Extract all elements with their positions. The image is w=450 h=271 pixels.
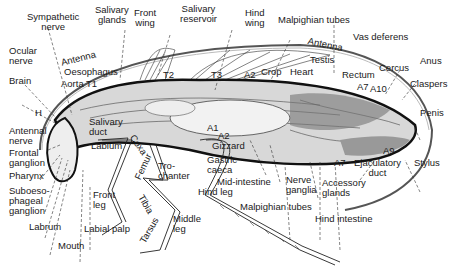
label-heart: Heart [290,67,313,77]
label-hind-intestine: Hind intestine [315,214,373,224]
label-a2-top: A2 [244,70,256,80]
label-claspers: Claspers [410,79,448,89]
anatomy-diagram: Sympathetic nerve Salivary glands Front … [0,0,450,271]
label-middle-leg: Middle leg [173,214,201,234]
label-testis: Testis [310,55,334,65]
label-gastric-caeca: Gastric caeca [207,155,237,175]
label-trochanter: Tro- chanter [158,161,190,181]
label-frontal-ganglion: Frontal ganglion [9,148,45,168]
label-oesophagus: Oesophagus [64,67,118,77]
label-penis: Penis [420,108,444,118]
label-salivary-reservoir: Salivary reservoir [180,4,217,24]
label-nerve-ganglia: Nerve ganglia [286,175,317,195]
label-a7-top: A7 [357,82,369,92]
label-front-wing: Front wing [134,8,156,28]
label-t1: T1 [86,79,97,89]
label-h: H [35,108,42,118]
label-aorta: Aorta [61,79,84,89]
label-rectum: Rectum [342,70,375,80]
label-t3: T3 [211,70,222,80]
label-a9: A9 [383,146,395,156]
label-a10: A10 [370,84,387,94]
label-labial-palp: Labial palp [84,224,130,234]
label-ejaculatory-duct: Ejaculatory duct [354,158,401,178]
label-labium: Labium [91,141,122,151]
label-gizzard: Gizzard [212,141,245,151]
label-suboesophageal-ganglion: Suboeso- phageal ganglion [9,186,50,216]
label-labrum: Labrum [29,222,61,232]
label-a1: A1 [207,123,219,133]
label-mouth: Mouth [58,241,84,251]
label-antennal-nerve: Antennal nerve [9,126,47,146]
label-a7-bottom: A7 [334,158,346,168]
label-vas-deferens: Vas deferens [353,32,408,42]
label-pharynx: Pharynx [9,171,44,181]
label-ocular-nerve: Ocular nerve [9,46,37,66]
label-salivary-glands: Salivary glands [95,5,129,25]
label-malpighian-tubes-bottom: Malpighian tubes [240,202,312,212]
label-stylus: Stylus [414,158,440,168]
label-cercus: Cercus [379,63,409,73]
label-accessory-glands: Accessory glands [322,178,366,198]
label-anus: Anus [420,56,442,66]
label-t2: T2 [163,70,174,80]
label-hind-wing: Hind wing [245,8,265,28]
label-malpighian-tubes-top: Malpighian tubes [278,15,350,25]
label-hind-leg: Hind leg [198,187,233,197]
label-crop: Crop [261,67,282,77]
label-sympathetic-nerve: Sympathetic nerve [27,12,79,32]
label-front-leg: Front leg [93,190,115,210]
label-salivary-duct: Salivary duct [89,117,123,137]
label-brain: Brain [9,76,31,86]
